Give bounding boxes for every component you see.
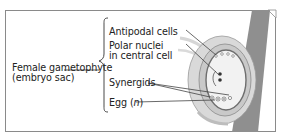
egg-label-suffix: ) <box>140 97 144 108</box>
antipodal-cells-label: Antipodal cells <box>109 26 178 37</box>
egg-label: Egg (n) <box>109 97 143 108</box>
main-label-line2: (embryo sac) <box>12 72 74 83</box>
synergids-label: Synergids <box>109 77 155 88</box>
polar-nuclei-label-line2: in central cell <box>109 50 172 61</box>
embryo-sac-shape <box>206 50 246 110</box>
egg-label-prefix: Egg ( <box>109 97 134 108</box>
